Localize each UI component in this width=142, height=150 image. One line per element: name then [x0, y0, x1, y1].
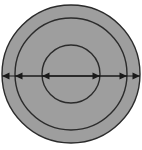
circles-group [2, 5, 140, 143]
concentric-circles-diagram [0, 0, 142, 150]
figure-container [0, 0, 142, 150]
inner-circle [42, 45, 100, 103]
